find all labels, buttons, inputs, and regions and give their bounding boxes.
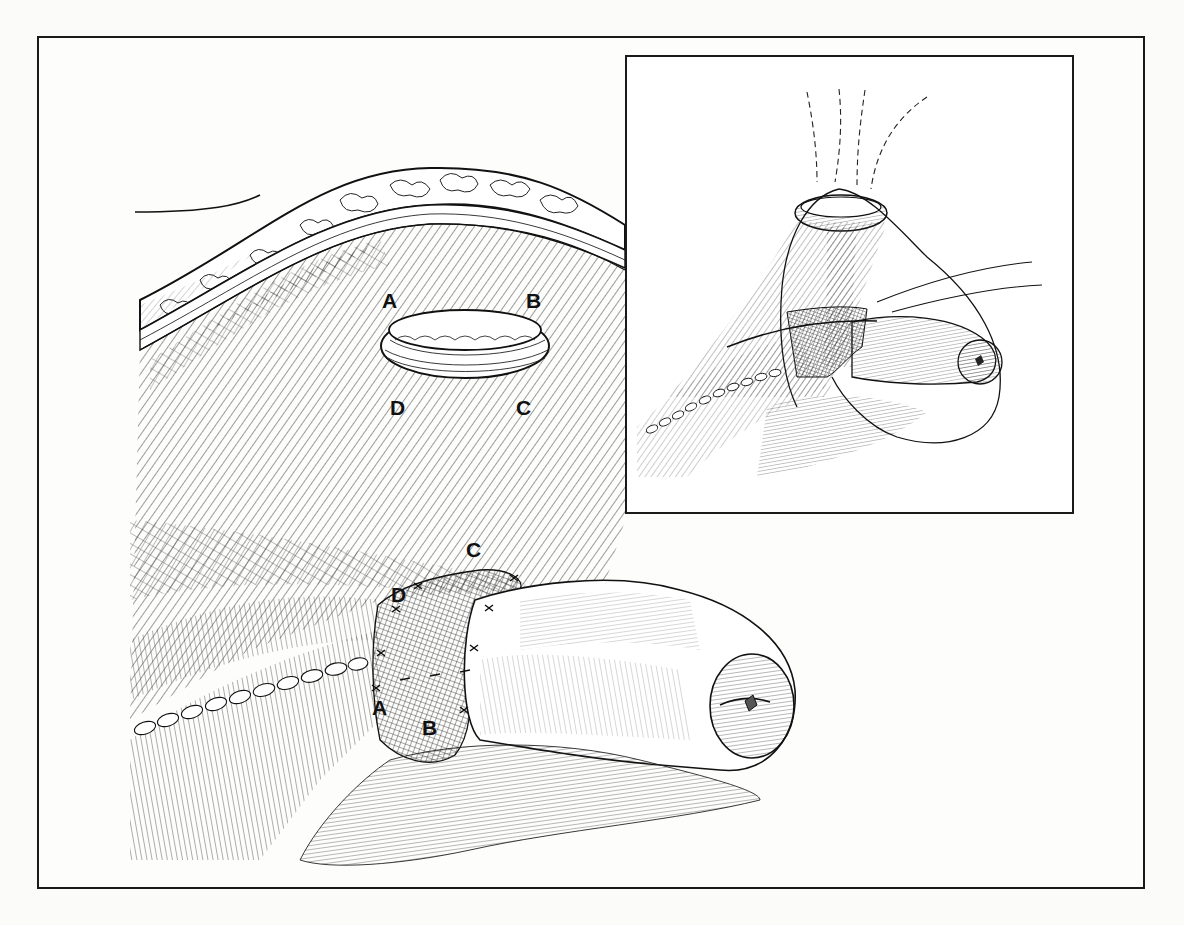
- aperture-label-d: D: [390, 397, 405, 418]
- mesh-label-a: A: [372, 697, 387, 718]
- abdominal-wall-aperture: [381, 310, 549, 378]
- aperture-label-b: B: [526, 290, 541, 311]
- mesh-label-c: C: [466, 539, 481, 560]
- aperture-label-c: C: [516, 397, 531, 418]
- suture-threads: [807, 89, 927, 189]
- mesh-label-b: B: [422, 717, 437, 738]
- inset-illustration: [627, 57, 1072, 512]
- mesh-label-d: D: [391, 584, 406, 605]
- bowel-stoma: [464, 580, 795, 770]
- inset-panel: [625, 55, 1074, 514]
- aperture-label-a: A: [382, 290, 397, 311]
